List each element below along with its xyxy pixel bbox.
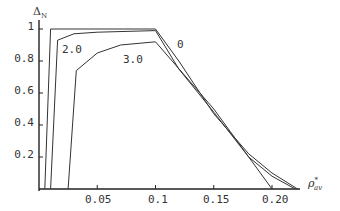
plot-area — [0, 0, 340, 211]
x-tick-0.05: 0.05 — [85, 193, 112, 206]
y-tick-0.6: 0.6 — [4, 84, 34, 97]
x-tick-0.1: 0.1 — [148, 193, 168, 206]
y-axis-label: ΔN — [33, 5, 47, 20]
x-tick-0.20: 0.20 — [262, 193, 289, 206]
series-0 — [45, 29, 298, 189]
y-tick-1: 1 — [4, 20, 34, 33]
series-2.0 — [51, 31, 296, 189]
chart: ΔN ρ*av 1 0.8 0.6 0.4 0.2 0.05 0.1 0.15 … — [0, 0, 340, 211]
y-tick-0.4: 0.4 — [4, 116, 34, 129]
series-3.0 — [68, 42, 272, 189]
curve-label-3.0: 3.0 — [123, 53, 143, 66]
x-axis-label: ρ*av — [308, 176, 322, 192]
y-tick-0.2: 0.2 — [4, 148, 34, 161]
curve-label-0: 0 — [177, 38, 184, 51]
x-tick-0.15: 0.15 — [203, 193, 230, 206]
curve-label-2.0: 2.0 — [62, 43, 82, 56]
y-tick-0.8: 0.8 — [4, 52, 34, 65]
